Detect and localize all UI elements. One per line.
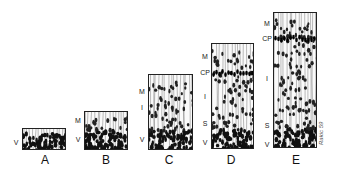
cell-texture-icon bbox=[212, 44, 254, 149]
layer-label-m: M bbox=[139, 88, 145, 95]
layer-label-i: I bbox=[266, 75, 268, 82]
cell-texture-icon bbox=[274, 13, 317, 148]
layer-label-s: S bbox=[265, 122, 270, 129]
layer-label-m: M bbox=[264, 20, 270, 27]
stage-label-c: C bbox=[165, 154, 174, 166]
layer-label-m: M bbox=[75, 117, 81, 124]
layer-label-v: V bbox=[14, 139, 19, 146]
cell-texture-icon bbox=[85, 112, 128, 150]
stage-label-a: A bbox=[41, 154, 49, 166]
stage-label-d: D bbox=[227, 154, 236, 166]
stage-label-e: E bbox=[292, 154, 300, 166]
stage-panel-c bbox=[148, 74, 193, 150]
layer-label-v: V bbox=[140, 136, 145, 143]
stage-panel-b bbox=[84, 111, 128, 150]
cell-texture-icon bbox=[149, 75, 193, 150]
layer-label-m: M bbox=[202, 53, 208, 60]
stage-panel-e bbox=[273, 12, 317, 148]
artist-signature: Rakic 59 bbox=[318, 122, 324, 145]
layer-label-v: V bbox=[265, 141, 270, 148]
layer-label-i: I bbox=[204, 93, 206, 100]
stage-label-b: B bbox=[102, 154, 110, 166]
layer-label-v: V bbox=[203, 139, 208, 146]
cell-texture-icon bbox=[23, 129, 66, 150]
stage-panel-d bbox=[211, 43, 254, 149]
layer-label-s: S bbox=[203, 120, 208, 127]
layer-label-cp: CP bbox=[262, 35, 272, 42]
layer-label-v: V bbox=[76, 136, 81, 143]
stage-panel-a bbox=[22, 128, 66, 150]
layer-label-i: I bbox=[141, 104, 143, 111]
layer-label-cp: CP bbox=[200, 69, 210, 76]
